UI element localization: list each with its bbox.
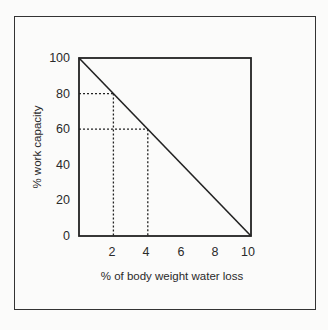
y-tick: 0 [63,229,70,243]
x-tick: 6 [178,245,185,259]
chart: 100 80 60 40 20 0 2 4 6 8 10 % of body w… [0,0,328,330]
x-axis-label: % of body weight water loss [101,270,244,282]
reference-lines [79,94,148,236]
x-tick: 2 [109,245,116,259]
y-axis-ticks: 100 80 60 40 20 0 [49,51,70,243]
y-axis-label: % work capacity [31,105,43,188]
y-tick: 100 [49,51,70,65]
y-tick: 40 [56,158,70,172]
y-tick: 60 [56,122,70,136]
x-tick: 10 [241,245,255,259]
x-tick: 4 [143,245,150,259]
work-capacity-line [79,58,251,236]
x-tick: 8 [212,245,219,259]
y-tick: 20 [56,193,70,207]
y-tick: 80 [56,87,70,101]
x-axis-ticks: 2 4 6 8 10 [109,245,255,259]
